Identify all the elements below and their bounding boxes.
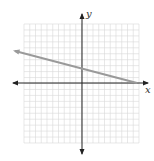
line-left-arrow-icon	[13, 50, 20, 55]
plotted-line	[13, 50, 137, 84]
x-axis-left-arrow-icon	[12, 81, 18, 86]
y-axis-label: y	[86, 8, 92, 19]
y-axis-up-arrow-icon	[80, 13, 85, 19]
y-axis	[80, 13, 85, 155]
x-axis-label: x	[145, 84, 151, 95]
coordinate-graph	[0, 0, 154, 161]
y-axis-down-arrow-icon	[80, 149, 85, 155]
